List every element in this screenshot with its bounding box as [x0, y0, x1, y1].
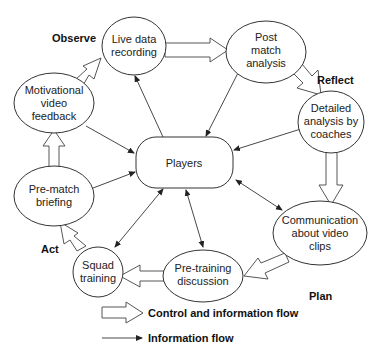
legend-control-flow-label: Control and information flow: [148, 307, 299, 319]
phase-label-plan: Plan: [309, 290, 333, 302]
svg-text:Live data: Live data: [112, 33, 158, 45]
svg-text:analysis by: analysis by: [304, 115, 359, 127]
node-squad-training: Squad training: [73, 247, 123, 297]
svg-text:briefing: briefing: [36, 196, 72, 208]
phase-label-observe: Observe: [52, 32, 96, 44]
phase-label-reflect: Reflect: [317, 74, 354, 86]
phase-label-act: Act: [41, 243, 59, 255]
svg-text:Squad: Squad: [82, 259, 114, 271]
arrow-players-communication: [236, 180, 282, 210]
svg-text:coaches: coaches: [311, 128, 352, 140]
node-pre-training: Pre-training discussion: [163, 250, 243, 302]
svg-text:Communication: Communication: [282, 214, 358, 226]
svg-text:match: match: [251, 44, 281, 56]
node-pre-match-briefing: Pre-match briefing: [14, 166, 94, 226]
svg-text:feedback: feedback: [32, 110, 77, 122]
svg-text:clips: clips: [309, 240, 332, 252]
arrow-players-to-live: [135, 76, 163, 137]
arrow-players-pretraining: [186, 190, 203, 247]
svg-text:recording: recording: [111, 46, 157, 58]
fat-arrow-squad-to-prematch: [60, 222, 86, 251]
legend: Control and information flow Information…: [102, 302, 299, 344]
svg-text:Detailed: Detailed: [311, 102, 351, 114]
svg-text:Pre-match: Pre-match: [29, 183, 80, 195]
node-live-data: Live data recording: [102, 17, 166, 75]
arrow-detailed-to-players: [234, 128, 304, 150]
cycle-diagram: Live data recording Post match analysis …: [0, 0, 381, 356]
arrow-players-squad: [115, 189, 163, 247]
svg-text:about video: about video: [292, 227, 349, 239]
node-motivational-video: Motivational video feedback: [14, 73, 94, 133]
node-post-match: Post match analysis: [226, 21, 306, 83]
node-detailed-analysis: Detailed analysis by coaches: [298, 91, 364, 153]
legend-fat-arrow-icon: [102, 302, 143, 323]
arrow-motivational-to-players: [86, 126, 134, 153]
svg-text:video: video: [41, 97, 67, 109]
svg-text:Pre-training: Pre-training: [175, 262, 232, 274]
svg-text:analysis: analysis: [246, 57, 286, 69]
svg-text:Motivational: Motivational: [25, 84, 84, 96]
node-communication: Communication about video clips: [273, 201, 367, 265]
fat-arrow-detailed-to-communication: [319, 150, 343, 205]
svg-text:discussion: discussion: [177, 275, 228, 287]
svg-text:Post: Post: [255, 31, 277, 43]
svg-text:training: training: [80, 272, 116, 284]
svg-text:Players: Players: [166, 157, 203, 169]
fat-arrow-prematch-to-motivational: [43, 130, 65, 167]
fat-arrow-communication-to-pretraining: [244, 253, 289, 279]
fat-arrow-pretraining-to-squad: [120, 265, 166, 287]
node-players: Players: [136, 137, 233, 188]
fat-arrow-live-to-post: [165, 38, 228, 62]
legend-info-flow-label: Information flow: [148, 332, 234, 344]
arrow-post-to-players: [206, 69, 240, 136]
